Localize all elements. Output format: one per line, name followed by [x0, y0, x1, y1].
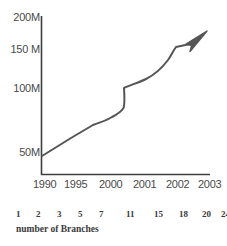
- branch-tick-18: 18: [179, 209, 188, 219]
- branch-tick-5: 5: [78, 209, 83, 219]
- x-tick-label-2002: 2002: [166, 178, 189, 190]
- y-tick-label-50m: 50M: [6, 146, 40, 158]
- branch-tick-15: 15: [154, 209, 163, 219]
- y-tick-label-200m: 200M: [6, 11, 40, 23]
- branch-tick-3: 3: [57, 209, 62, 219]
- x-tick-label-2001: 2001: [133, 178, 156, 190]
- x-tick-label-2003: 2003: [198, 178, 221, 190]
- chart-container: 200M 150 M 100M 50M 1990 1995 2000 2001 …: [0, 0, 227, 246]
- branch-tick-24: 24: [221, 209, 227, 219]
- y-tick-label-150m: 150 M: [6, 43, 40, 55]
- branch-count-tick-row: 1 2 3 5 7 11 15 18 20 24: [16, 209, 221, 223]
- branch-tick-20: 20: [202, 209, 211, 219]
- y-tick-label-100m: 100M: [6, 82, 40, 94]
- branch-tick-7: 7: [99, 209, 104, 219]
- x-tick-label-1995: 1995: [64, 178, 87, 190]
- x-axis-tick-labels: 1990 1995 2000 2001 2002 2003: [33, 178, 219, 194]
- trend-arrow-icon: [186, 31, 207, 52]
- x-tick-label-2000: 2000: [99, 178, 122, 190]
- branch-tick-2: 2: [36, 209, 41, 219]
- branch-tick-1: 1: [16, 209, 21, 219]
- data-line: [42, 44, 190, 156]
- branch-tick-11: 11: [126, 209, 135, 219]
- x-axis-title: number of Branches: [16, 224, 99, 234]
- x-tick-label-1990: 1990: [33, 178, 56, 190]
